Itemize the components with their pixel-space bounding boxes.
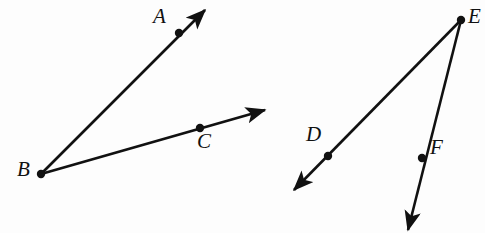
diagram-canvas: A B C D E F [0,0,485,233]
geometry-figure [0,0,485,233]
point-b-marker [37,170,45,178]
ray-ef [408,20,461,230]
ray-ed [294,20,461,190]
point-label-a: A [153,6,166,27]
point-d-marker [324,152,332,160]
point-a-marker [175,29,183,37]
point-label-c: C [197,131,211,152]
point-label-e: E [468,6,481,27]
point-label-d: D [306,124,321,145]
point-label-b: B [17,159,30,180]
angle-abc-group [37,10,265,178]
point-label-f: F [430,137,443,158]
point-e-marker [457,16,465,24]
point-f-marker [418,154,426,162]
